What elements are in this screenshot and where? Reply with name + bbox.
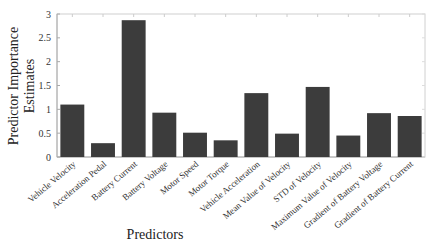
bar	[336, 136, 360, 157]
y-tick-label: 2.5	[39, 32, 52, 43]
y-axis-title-text: Predictor ImportanceEstimates	[6, 27, 37, 146]
y-tick-label: 0	[46, 152, 51, 163]
bar	[60, 105, 84, 157]
bar	[152, 113, 176, 157]
bar	[244, 93, 268, 157]
bar	[367, 113, 391, 157]
bar	[275, 134, 299, 157]
y-axis-title: Predictor ImportanceEstimates	[6, 27, 37, 146]
y-tick-label: 0.5	[39, 128, 52, 139]
x-axis-title: Predictors	[127, 227, 184, 242]
bar	[91, 143, 115, 157]
y-tick-label: 2	[46, 56, 51, 67]
y-tick-label: 1.5	[39, 80, 52, 91]
bar	[306, 87, 330, 157]
bars	[60, 14, 421, 157]
x-category-label: Acceleration Pedal	[50, 159, 109, 211]
bar-chart: Predictor ImportanceEstimates 00.511.522…	[0, 0, 432, 252]
bar	[122, 20, 146, 157]
y-tick-label: 1	[46, 104, 51, 115]
bar	[183, 133, 207, 157]
bar	[214, 140, 238, 157]
bar	[398, 116, 422, 157]
y-axis-ticks: 00.511.522.53	[39, 9, 426, 163]
x-axis-category-labels: Vehicle VelocityAcceleration PedalBatter…	[26, 159, 415, 232]
y-tick-label: 3	[46, 9, 51, 20]
